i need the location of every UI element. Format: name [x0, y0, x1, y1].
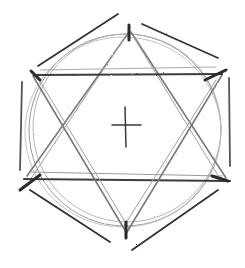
hexagram-sketch — [0, 0, 245, 268]
center-cross-mark — [112, 107, 141, 147]
circle-outline — [25, 34, 221, 227]
